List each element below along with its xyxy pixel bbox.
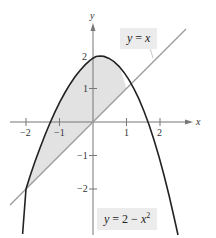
y-axis-label: y [89,10,95,21]
line-equation-label: y = x [120,28,157,49]
label-leader-line [150,48,153,58]
svg-text:−1: −1 [77,150,88,161]
label-y: y [104,212,109,226]
chart-canvas: −2 −1 1 2 2 1 −1 −2 x y [0,0,216,238]
svg-text:1: 1 [124,127,129,138]
svg-text:1: 1 [83,83,88,94]
label-exponent: 2 [146,211,150,220]
x-axis-label: x [195,116,201,127]
label-rhs: x [145,31,150,45]
line-y-equals-x [10,29,186,205]
y-axis-arrow-icon [91,23,96,31]
parabola-equation-label: y = 2 − x2 [97,208,157,230]
svg-text:−2: −2 [20,127,31,138]
x-axis-arrow-icon [185,120,193,125]
label-eq: = [135,31,142,45]
label-eq: = 2 − [112,212,138,226]
svg-text:2: 2 [82,51,87,62]
svg-text:−1: −1 [54,127,65,138]
svg-text:2: 2 [157,127,162,138]
svg-text:−2: −2 [77,183,88,194]
label-y: y [127,31,132,45]
